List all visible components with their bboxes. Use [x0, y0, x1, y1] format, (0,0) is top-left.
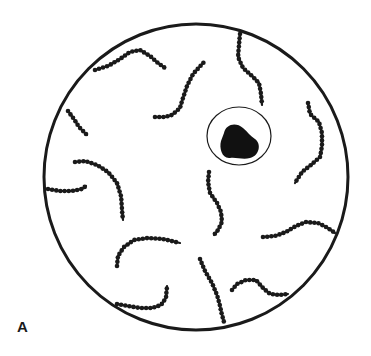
coccus	[119, 193, 124, 198]
coccus	[54, 188, 59, 193]
coccus	[50, 187, 55, 192]
coccus	[318, 126, 323, 131]
coccus	[219, 311, 224, 316]
coccus	[259, 95, 264, 100]
coccus	[220, 315, 225, 320]
chain-left-edge	[46, 185, 87, 194]
coccus	[164, 295, 169, 300]
coccus	[164, 290, 169, 295]
coccus	[157, 237, 162, 242]
coccus	[161, 115, 166, 120]
coccus	[258, 87, 263, 92]
coccus	[115, 260, 120, 265]
coccus	[161, 237, 166, 242]
coccus	[265, 234, 270, 239]
coccus	[207, 186, 212, 191]
chain-center	[206, 170, 224, 236]
chain-top-right	[236, 32, 264, 105]
chain-bottom-right	[230, 278, 288, 297]
coccus	[304, 220, 309, 225]
coccus	[58, 189, 63, 194]
coccus	[222, 319, 227, 324]
coccus	[153, 236, 158, 241]
coccus	[237, 44, 242, 49]
coccus	[77, 159, 82, 164]
coccus	[130, 49, 135, 54]
coccus	[46, 187, 51, 192]
coccus	[120, 206, 125, 211]
coccus	[71, 189, 76, 194]
coccus	[119, 202, 124, 207]
coccus	[308, 220, 313, 225]
coccus	[73, 160, 78, 165]
coccus	[141, 236, 146, 241]
coccus	[216, 299, 221, 304]
coccus	[247, 278, 252, 283]
coccus	[182, 92, 187, 97]
coccus	[312, 220, 317, 225]
coccus	[115, 181, 120, 186]
coccus	[219, 217, 224, 222]
coccus	[307, 105, 312, 110]
coccus	[179, 100, 184, 105]
coccus	[236, 53, 241, 58]
streptococci-diagram	[0, 0, 371, 356]
chain-right-lower	[261, 220, 336, 240]
coccus	[97, 67, 102, 72]
coccus	[93, 68, 98, 73]
coccus	[136, 237, 141, 242]
coccus	[320, 142, 325, 147]
chain-bottom-center	[198, 257, 226, 324]
coccus	[140, 306, 145, 311]
coccus	[273, 234, 278, 239]
chain-top-center	[153, 60, 206, 119]
coccus	[153, 115, 158, 120]
coccus	[152, 305, 157, 310]
coccus	[201, 60, 206, 65]
chain-link	[238, 34, 262, 105]
coccus	[81, 159, 86, 164]
coccus	[165, 286, 170, 291]
coccus	[116, 185, 121, 190]
coccus	[145, 236, 150, 241]
coccus	[85, 160, 90, 165]
coccus	[165, 114, 170, 119]
coccus	[213, 232, 218, 237]
chain-top-left	[93, 48, 167, 72]
coccus	[319, 151, 324, 156]
coccus	[127, 304, 132, 309]
coccus	[306, 101, 311, 106]
coccus	[275, 292, 280, 297]
coccus	[174, 240, 179, 245]
coccus	[215, 295, 220, 300]
coccus	[320, 138, 325, 143]
coccus	[320, 134, 325, 139]
coccus	[317, 122, 322, 127]
host-cell	[207, 107, 271, 165]
coccus	[115, 302, 120, 307]
coccus	[157, 115, 162, 120]
chain-right	[294, 101, 324, 183]
coccus	[117, 189, 122, 194]
panel-label: A	[17, 318, 28, 335]
coccus	[271, 292, 276, 297]
cell-nucleus	[220, 125, 258, 159]
chain-lower-left	[115, 236, 180, 269]
coccus	[170, 239, 175, 244]
coccus	[219, 213, 224, 218]
coccus	[148, 306, 153, 311]
coccus	[89, 161, 94, 166]
coccus	[218, 303, 223, 308]
coccus	[279, 293, 284, 298]
coccus	[75, 188, 80, 193]
coccus	[115, 264, 120, 269]
coccus	[259, 99, 264, 104]
coccus	[123, 303, 128, 308]
coccus	[236, 48, 241, 53]
coccus	[62, 189, 67, 194]
chain-left-short	[66, 109, 89, 137]
coccus	[183, 88, 188, 93]
coccus	[319, 130, 324, 135]
coccus	[101, 65, 106, 70]
coccus	[206, 174, 211, 179]
